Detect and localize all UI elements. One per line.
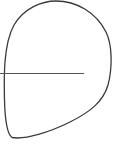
teardrop-outline (4, 1, 111, 138)
diagram-svg (0, 0, 120, 151)
diagram-canvas (0, 0, 120, 151)
